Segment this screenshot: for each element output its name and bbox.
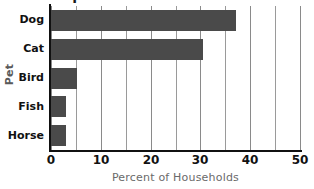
x-tick-label-20: 20 bbox=[131, 153, 171, 167]
bar-cat bbox=[51, 39, 203, 60]
x-tick-label-40: 40 bbox=[230, 153, 270, 167]
y-tick-label-fish: Fish bbox=[0, 101, 44, 112]
bars-layer bbox=[51, 6, 300, 150]
bar-chart-figure: Popular Pets Pet DogCatBirdFishHorse 010… bbox=[0, 0, 314, 189]
x-axis-line bbox=[49, 150, 302, 152]
y-tick-label-cat: Cat bbox=[0, 43, 44, 54]
x-tick-label-0: 0 bbox=[31, 153, 71, 167]
chart-title: Popular Pets bbox=[52, 0, 302, 3]
x-tick-label-50: 50 bbox=[280, 153, 314, 167]
plot-area bbox=[51, 6, 300, 150]
x-tick-label-10: 10 bbox=[81, 153, 121, 167]
x-tick-label-30: 30 bbox=[180, 153, 220, 167]
y-tick-label-dog: Dog bbox=[0, 14, 44, 25]
x-axis-tick-labels: 01020304050 bbox=[51, 153, 300, 169]
gridline-50 bbox=[300, 6, 301, 150]
bar-bird bbox=[51, 68, 77, 89]
y-tick-label-bird: Bird bbox=[0, 72, 44, 83]
bar-horse bbox=[51, 125, 66, 146]
bar-dog bbox=[51, 10, 236, 31]
y-axis-line bbox=[49, 4, 51, 152]
x-axis-title: Percent of Households bbox=[51, 171, 300, 184]
y-axis-tick-labels: DogCatBirdFishHorse bbox=[0, 6, 48, 150]
y-tick-label-horse: Horse bbox=[0, 130, 44, 141]
bar-fish bbox=[51, 96, 66, 117]
